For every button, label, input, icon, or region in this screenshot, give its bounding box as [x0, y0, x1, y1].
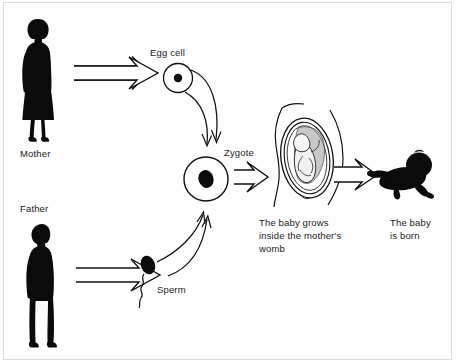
- label-father: Father: [20, 202, 48, 215]
- pregnant-womb-icon: [274, 104, 343, 207]
- woman-silhouette-icon: [22, 19, 54, 142]
- label-egg-cell: Egg cell: [150, 46, 185, 59]
- label-sperm: Sperm: [157, 283, 186, 296]
- label-zygote: Zygote: [224, 146, 254, 159]
- arrow-zygote-to-womb: [234, 162, 268, 192]
- zygote-cell-icon: [184, 157, 228, 201]
- man-silhouette-icon: [26, 224, 57, 348]
- egg-cell-icon: [164, 64, 193, 93]
- crawling-baby-icon: [367, 150, 434, 200]
- diagram-canvas: [0, 0, 456, 363]
- label-baby-grows-in-womb: The baby grows inside the mother's womb: [259, 216, 341, 255]
- arrow-sperm-to-zygote: [157, 212, 211, 276]
- label-mother: Mother: [20, 147, 50, 160]
- arrow-mother-to-egg-cell-outline: [74, 57, 158, 89]
- reproduction-diagram: Mother Father Egg cell Sperm Zygote The …: [0, 0, 456, 363]
- label-baby-is-born: The baby is born: [390, 216, 431, 242]
